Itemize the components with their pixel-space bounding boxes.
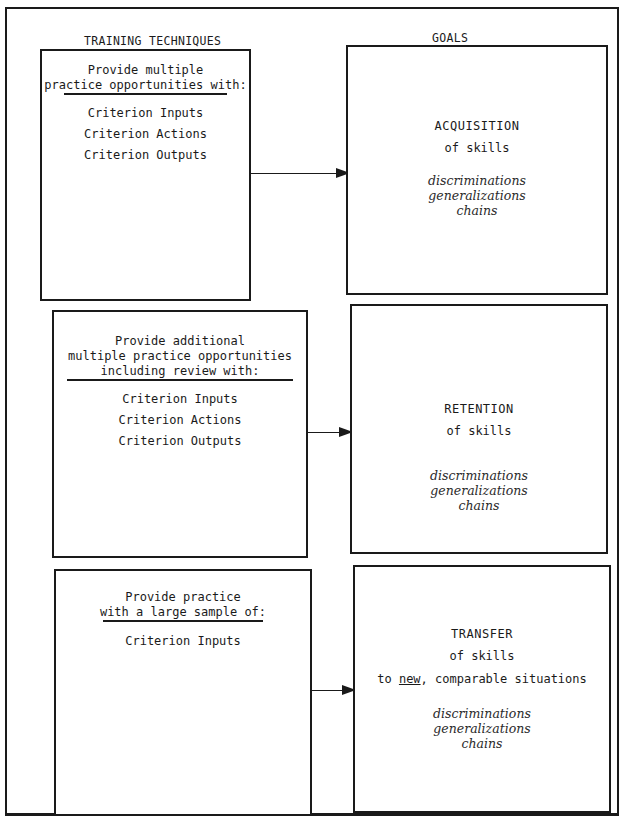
goal-extra-prefix: to: [377, 672, 399, 686]
skill-type: chains: [352, 498, 606, 513]
goal-box-retention: RETENTION of skills discriminations gene…: [350, 304, 608, 554]
technique-box-transfer: Provide practice with a large sample of:…: [54, 569, 312, 816]
goal-subtitle: of skills: [355, 649, 609, 663]
goal-title: TRANSFER: [355, 627, 609, 641]
goal-subtitle: of skills: [352, 424, 606, 438]
criterion-list: Criterion Inputs Criterion Actions Crite…: [42, 103, 249, 166]
criterion-list: Criterion Inputs: [56, 631, 310, 652]
goal-title: ACQUISITION: [348, 119, 606, 133]
skill-type: generalizations: [355, 721, 609, 736]
goal-extra-emphasis: new: [399, 672, 421, 686]
criterion-item: Criterion Inputs: [54, 389, 306, 410]
goal-extra-suffix: , comparable situations: [421, 672, 587, 686]
skill-type: discriminations: [352, 468, 606, 483]
technique-intro: Provide additional multiple practice opp…: [54, 334, 306, 379]
technique-intro: Provide practice with a large sample of:: [56, 590, 310, 620]
intro-line: including review with:: [54, 364, 306, 379]
technique-intro: Provide multiple practice opportunities …: [42, 63, 249, 93]
underline-rule: [67, 379, 293, 381]
skill-types: discriminations generalizations chains: [348, 173, 606, 218]
skill-types: discriminations generalizations chains: [355, 706, 609, 751]
criterion-item: Criterion Actions: [42, 124, 249, 145]
intro-line: Provide practice: [56, 590, 310, 605]
technique-box-retention: Provide additional multiple practice opp…: [52, 310, 308, 558]
skill-type: discriminations: [348, 173, 606, 188]
skill-type: discriminations: [355, 706, 609, 721]
arrow-icon: [312, 690, 354, 691]
underline-rule: [64, 93, 227, 95]
intro-line: Provide multiple: [42, 63, 249, 78]
intro-line: Provide additional: [54, 334, 306, 349]
skill-type: generalizations: [352, 483, 606, 498]
underline-rule: [103, 620, 263, 622]
criterion-item: Criterion Inputs: [56, 631, 310, 652]
arrow-icon: [308, 432, 351, 433]
criterion-item: Criterion Actions: [54, 410, 306, 431]
goal-box-transfer: TRANSFER of skills to new, comparable si…: [353, 565, 611, 813]
header-training-techniques: TRAINING TECHNIQUES: [84, 34, 221, 48]
criterion-list: Criterion Inputs Criterion Actions Crite…: [54, 389, 306, 452]
goal-box-acquisition: ACQUISITION of skills discriminations ge…: [346, 45, 608, 295]
criterion-item: Criterion Inputs: [42, 103, 249, 124]
skill-types: discriminations generalizations chains: [352, 468, 606, 513]
technique-box-acquisition: Provide multiple practice opportunities …: [40, 49, 251, 301]
goal-extra: to new, comparable situations: [355, 672, 609, 686]
skill-type: chains: [348, 203, 606, 218]
goal-title: RETENTION: [352, 402, 606, 416]
arrow-icon: [251, 173, 348, 174]
goal-subtitle: of skills: [348, 141, 606, 155]
intro-line: practice opportunities with:: [42, 78, 249, 93]
header-goals: GOALS: [432, 31, 468, 45]
intro-line: with a large sample of:: [56, 605, 310, 620]
criterion-item: Criterion Outputs: [54, 431, 306, 452]
skill-type: generalizations: [348, 188, 606, 203]
intro-line: multiple practice opportunities: [54, 349, 306, 364]
criterion-item: Criterion Outputs: [42, 145, 249, 166]
skill-type: chains: [355, 736, 609, 751]
